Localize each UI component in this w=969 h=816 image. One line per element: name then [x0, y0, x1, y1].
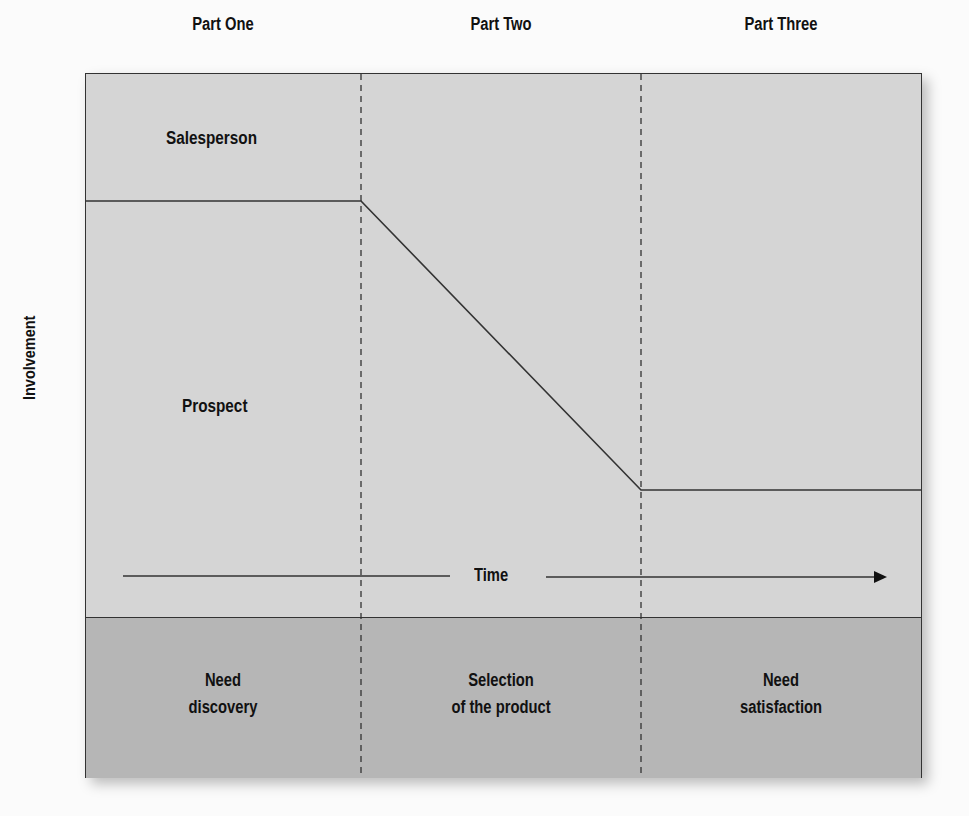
arrowhead-icon [874, 571, 887, 583]
stage-line1: Selection [394, 667, 607, 694]
stage-line2: discovery [116, 694, 329, 721]
stage-line2: of the product [394, 694, 607, 721]
stage-need-discovery: Need discovery [116, 667, 329, 721]
stage-line2: satisfaction [674, 694, 887, 721]
salesperson-label: Salesperson [166, 128, 257, 149]
stage-line1: Need [116, 667, 329, 694]
involvement-line [86, 201, 921, 490]
stage-line1: Need [674, 667, 887, 694]
stage-need-satisfaction: Need satisfaction [674, 667, 887, 721]
x-axis-label: Time [474, 565, 508, 586]
stage-selection-of-product: Selection of the product [394, 667, 607, 721]
prospect-label: Prospect [182, 396, 247, 417]
